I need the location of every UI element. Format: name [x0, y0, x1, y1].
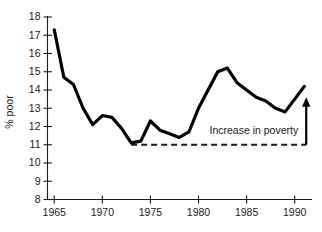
x-tick-label-1975: 1975: [139, 206, 163, 218]
increase-arrow-head: [302, 97, 310, 107]
y-tick-label-16: 16: [29, 47, 41, 59]
y-tick-label-13: 13: [29, 102, 41, 114]
y-tick-label-15: 15: [29, 65, 41, 77]
x-tick-labels: 196519701975198019851990: [43, 206, 307, 218]
y-tick-label-14: 14: [29, 83, 41, 95]
y-tick-label-9: 9: [35, 175, 41, 187]
x-tick-label-1990: 1990: [283, 206, 307, 218]
x-tick-label-1965: 1965: [43, 206, 67, 218]
increase-in-poverty-label: Increase in poverty: [210, 124, 299, 136]
annotation-group: Increase in poverty: [210, 97, 311, 145]
y-tick-label-17: 17: [29, 29, 41, 41]
y-tick-label-10: 10: [29, 156, 41, 168]
y-tick-label-18: 18: [29, 10, 41, 22]
y-axis-group: 89101112131415161718 % poor: [3, 10, 52, 205]
chart-canvas: 89101112131415161718 % poor 196519701975…: [0, 0, 322, 232]
poverty-line-chart: 89101112131415161718 % poor 196519701975…: [0, 0, 322, 232]
x-axis-group: 196519701975198019851990: [43, 196, 312, 219]
y-tick-labels: 89101112131415161718: [29, 10, 41, 205]
x-tick-label-1980: 1980: [187, 206, 211, 218]
y-tick-label-8: 8: [35, 193, 41, 205]
x-tick-label-1985: 1985: [235, 206, 259, 218]
y-tick-label-12: 12: [29, 120, 41, 132]
y-axis-title: % poor: [3, 95, 15, 129]
x-tick-label-1970: 1970: [91, 206, 115, 218]
y-tick-label-11: 11: [30, 138, 41, 150]
